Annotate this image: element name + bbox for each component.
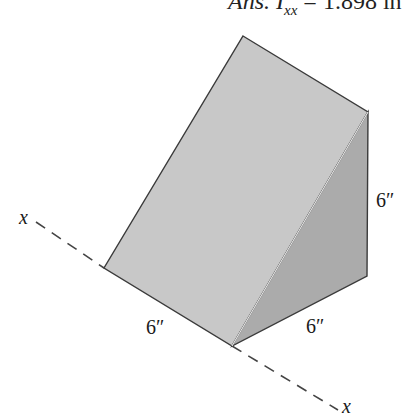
- axis-line-right: [232, 346, 338, 410]
- dim-label-height: 6″: [376, 189, 394, 211]
- axis-line-left: [36, 222, 104, 268]
- axis-label-x-start: x: [18, 206, 28, 228]
- wedge-figure: 6″ 6″ 6″ x x: [0, 0, 417, 420]
- dim-label-bottom-left: 6″: [146, 316, 164, 338]
- dim-label-bottom-right: 6″: [306, 315, 324, 337]
- axis-label-x-end: x: [341, 395, 351, 417]
